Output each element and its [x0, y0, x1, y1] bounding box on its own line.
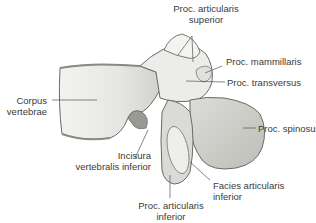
label-incisura-vertebralis-inferior: Incisura vertebralis inferior: [66, 150, 151, 172]
label-line: Proc. spinosus: [258, 123, 316, 134]
label-facies-articularis-inferior: Facies articularis inferior: [213, 180, 284, 202]
corpus-vertebrae-shape: [59, 64, 160, 139]
label-line: superior: [154, 14, 258, 25]
label-line: Incisura: [66, 150, 151, 161]
label-corpus-vertebrae: Corpus vertebrae: [2, 95, 47, 117]
label-line: Proc. articularis: [130, 200, 212, 211]
label-proc-spinosus: Proc. spinosus: [258, 123, 316, 134]
label-line: Corpus: [2, 95, 47, 106]
label-proc-transversus: Proc. transversus: [227, 77, 301, 88]
label-line: Proc. articularis: [154, 3, 258, 14]
label-line: vertebrae: [2, 106, 47, 117]
proc-spinosus-shape: [190, 97, 265, 169]
label-line: Proc. mammillaris: [226, 56, 301, 67]
label-line: inferior: [130, 211, 212, 222]
label-line: Facies articularis: [213, 180, 284, 191]
proc-articularis-inferior-shape: [161, 100, 193, 184]
label-proc-articularis-superior: Proc. articularis superior: [154, 3, 258, 25]
label-proc-articularis-inferior: Proc. articularis inferior: [130, 200, 212, 222]
label-line: inferior: [213, 191, 284, 202]
label-line: Proc. transversus: [227, 77, 301, 88]
label-line: vertebralis inferior: [66, 161, 151, 172]
vertebra-diagram: Proc. articularis superior Proc. mammill…: [0, 0, 316, 223]
label-proc-mammillaris: Proc. mammillaris: [226, 56, 301, 67]
